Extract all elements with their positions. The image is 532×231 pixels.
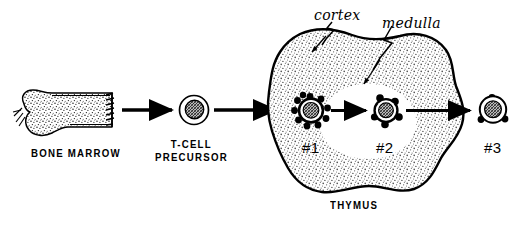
diagram-svg bbox=[0, 0, 532, 231]
t-cell-precursor-icon bbox=[180, 96, 209, 125]
figure-canvas: BONE MARROW T-CELL PRECURSOR cortex medu… bbox=[0, 0, 532, 231]
cell-3-label: #3 bbox=[484, 140, 502, 156]
bone-outline bbox=[23, 90, 112, 135]
bone-marrow-icon bbox=[13, 90, 114, 135]
cell-1-label: #1 bbox=[302, 140, 320, 156]
precursor-nucleus bbox=[185, 100, 203, 118]
thymus-label: THYMUS bbox=[330, 200, 378, 212]
cell-3-icon bbox=[478, 94, 509, 123]
cell-3-nucleus bbox=[485, 101, 502, 118]
t-cell-precursor-label-line1: T-CELL bbox=[164, 139, 219, 151]
bone-break-marks bbox=[13, 108, 25, 126]
t-cell-precursor-label-line2: PRECURSOR bbox=[155, 152, 225, 164]
medulla-label: medulla bbox=[382, 16, 441, 31]
thymus-medulla-region bbox=[320, 84, 417, 159]
thymus-organ bbox=[268, 22, 463, 192]
cell-2-label: #2 bbox=[376, 140, 394, 156]
bone-marrow-label: BONE MARROW bbox=[31, 148, 121, 160]
cell-1-nucleus bbox=[303, 103, 319, 119]
cortex-label: cortex bbox=[314, 8, 361, 23]
cell-2-nucleus bbox=[379, 103, 394, 118]
